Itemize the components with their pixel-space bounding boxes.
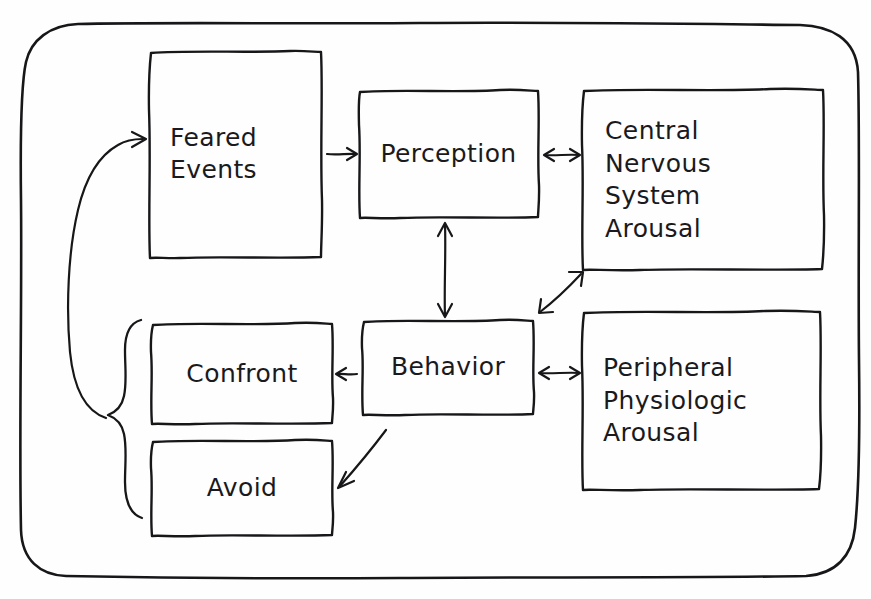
connector-behavior-to-avoid — [338, 430, 386, 488]
box-feared-events[interactable] — [149, 51, 322, 258]
connector-perception-to-behavior — [438, 223, 452, 317]
connector-behavior-to-confront — [336, 368, 357, 380]
sketch-layer — [0, 0, 871, 599]
box-central-nervous-system-arousal[interactable] — [582, 89, 824, 271]
box-confront[interactable] — [151, 323, 333, 425]
outer-frame — [20, 23, 859, 579]
connector-brace-to-feared-events — [68, 132, 146, 418]
box-perception[interactable] — [359, 90, 539, 219]
connector-feared-events-to-perception — [327, 148, 357, 160]
box-avoid[interactable] — [151, 440, 333, 537]
diagram-canvas: Feared Events Perception Central Nervous… — [0, 0, 871, 599]
connector-behavior-to-cns-arousal — [539, 272, 583, 313]
box-peripheral-physiologic-arousal[interactable] — [582, 311, 821, 491]
box-behavior[interactable] — [362, 320, 534, 416]
connector-behavior-to-peripheral-arousal — [539, 367, 580, 379]
connector-perception-to-cns-arousal — [544, 149, 580, 161]
brace-confront-avoid — [108, 320, 142, 518]
